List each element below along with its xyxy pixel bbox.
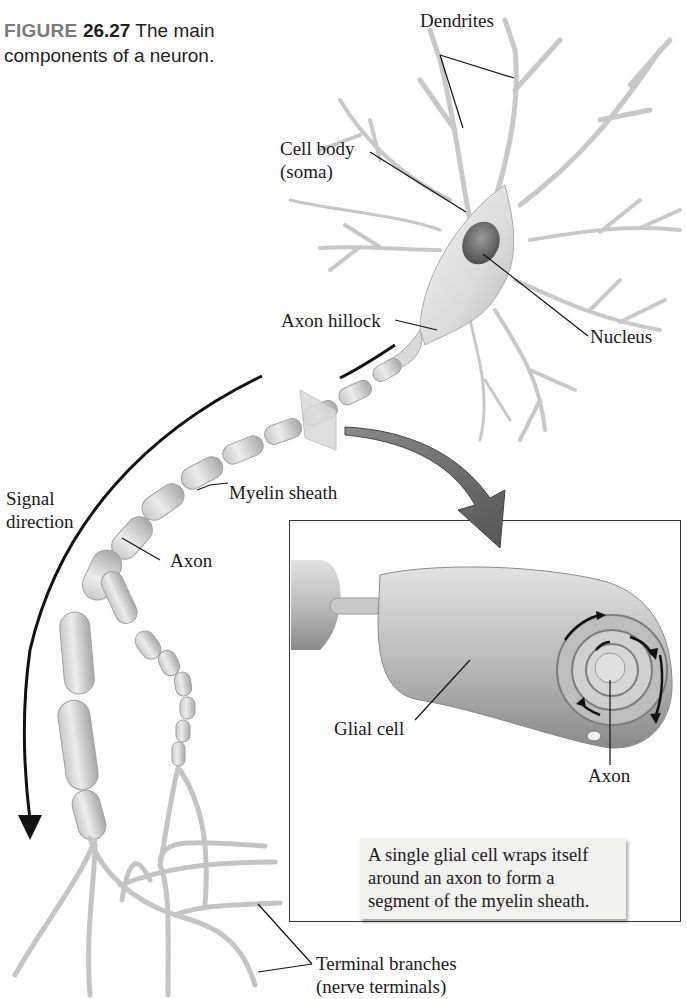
label-cell-body: Cell body [280,138,354,160]
zoom-arrow-icon [345,427,505,548]
label-axon-hillock: Axon hillock [281,310,381,332]
label-axon: Axon [170,550,212,572]
section-plane-icon [300,390,336,450]
label-inset-axon: Axon [588,765,630,787]
label-dendrites: Dendrites [420,10,494,32]
signal-arrowhead-icon [18,815,42,840]
terminal-branches [15,768,280,995]
label-nucleus: Nucleus [590,326,652,348]
signal-direction-arrow [24,376,262,820]
label-signal: Signal [6,488,55,510]
label-soma: (soma) [280,161,333,183]
label-glial-cell: Glial cell [334,718,404,740]
inset-note: A single glial cell wraps itself around … [360,838,626,919]
label-nerve-terminals: (nerve terminals) [316,976,446,998]
label-terminal-branches: Terminal branches [316,953,457,975]
label-direction: direction [6,511,74,533]
label-myelin-sheath: Myelin sheath [229,482,337,504]
